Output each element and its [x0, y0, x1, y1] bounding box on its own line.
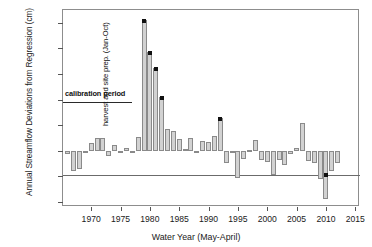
- bar: [241, 151, 246, 159]
- bar: [235, 151, 240, 178]
- bar: [335, 151, 340, 163]
- bar: [253, 140, 258, 151]
- bar: [183, 149, 188, 151]
- bar: [200, 141, 205, 151]
- bar: [71, 151, 76, 171]
- bar: [230, 151, 235, 154]
- bar: [65, 151, 70, 154]
- bar: [288, 151, 293, 155]
- y-tick: [58, 23, 63, 24]
- bar: [118, 151, 123, 153]
- y-tick: [58, 48, 63, 49]
- bar: [177, 139, 182, 151]
- bar: [318, 151, 323, 180]
- x-tick: [179, 207, 180, 211]
- bar: [77, 151, 82, 169]
- bar: [300, 123, 305, 151]
- bar: [153, 68, 158, 151]
- bar: [136, 137, 141, 151]
- data-marker: [218, 117, 222, 121]
- data-marker: [160, 96, 164, 100]
- x-tick: [121, 207, 122, 211]
- bar: [194, 151, 199, 153]
- bar: [95, 138, 100, 151]
- chart-figure: Annual Streamflow Deviations from Regres…: [0, 0, 372, 247]
- bar: [265, 151, 270, 163]
- bar: [329, 151, 334, 171]
- bar: [218, 118, 223, 151]
- data-marker: [154, 67, 158, 71]
- y-axis-title: Annual Streamflow Deviations from Regres…: [24, 7, 34, 197]
- bar: [259, 151, 264, 160]
- bar: [106, 151, 111, 156]
- bar: [306, 151, 311, 162]
- bar: [142, 20, 147, 151]
- data-marker: [324, 173, 328, 177]
- bar: [130, 151, 135, 153]
- bar: [124, 148, 129, 151]
- x-tick: [355, 207, 356, 211]
- x-tick: [326, 207, 327, 211]
- bar: [159, 97, 164, 150]
- data-marker: [142, 19, 146, 23]
- bar: [224, 151, 229, 163]
- calibration-period-label: calibration period: [65, 89, 125, 98]
- bar: [188, 138, 193, 151]
- bar: [212, 136, 217, 151]
- bar: [206, 142, 211, 151]
- data-marker: [148, 51, 152, 55]
- y-tick: [58, 74, 63, 75]
- bar: [171, 131, 176, 151]
- x-tick: [297, 207, 298, 211]
- y-tick: [58, 202, 63, 203]
- bar: [271, 151, 276, 176]
- bar: [83, 151, 88, 153]
- zero-baseline: [63, 175, 360, 176]
- x-axis-title: Water Year (May-April): [96, 232, 296, 242]
- bar: [100, 138, 105, 150]
- harvest-site-prep-label: harvest and site prep. (Jan-Oct): [101, 22, 110, 126]
- plot-area: 2520151050−5−10 197019751980198519901995…: [62, 9, 359, 206]
- bar: [147, 52, 152, 151]
- bar: [89, 143, 94, 151]
- bar: [247, 150, 252, 152]
- bar: [282, 151, 287, 165]
- y-tick: [58, 176, 63, 177]
- x-tick: [150, 207, 151, 211]
- y-tick: [58, 100, 63, 101]
- y-tick: [58, 151, 63, 152]
- bar: [112, 145, 117, 151]
- bar: [277, 151, 282, 161]
- calibration-period-bar: [63, 102, 132, 103]
- bar: [294, 148, 299, 151]
- x-tick: [91, 207, 92, 211]
- x-tick: [267, 207, 268, 211]
- x-tick: [209, 207, 210, 211]
- x-tick-label: 2015: [335, 214, 372, 224]
- bar: [165, 129, 170, 150]
- x-tick: [238, 207, 239, 211]
- y-tick: [58, 125, 63, 126]
- bar: [312, 151, 317, 164]
